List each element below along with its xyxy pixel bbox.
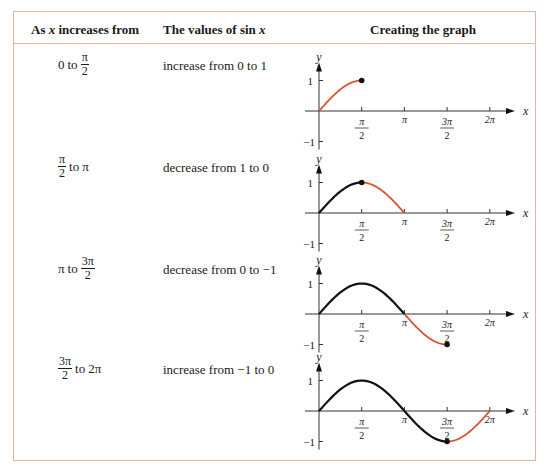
y-tick-label: 1 xyxy=(308,75,314,87)
row-4-values: increase from −1 to 0 xyxy=(163,362,274,378)
row-3-values: decrease from 0 to −1 xyxy=(163,262,276,278)
highlight-curve xyxy=(319,81,362,112)
endpoint-dot xyxy=(359,78,365,84)
y-tick-label: 1 xyxy=(308,278,314,290)
y-tick-label: 1 xyxy=(308,375,314,387)
y-tick-label: −1 xyxy=(303,136,315,148)
header-sin-values: The values of sin x xyxy=(163,22,266,38)
y-tick-label: −1 xyxy=(303,339,315,351)
highlight-curve xyxy=(404,314,447,345)
x-axis-arrow-icon xyxy=(506,108,515,114)
endpoint-dot xyxy=(359,180,365,186)
x-tick-label: 2π xyxy=(485,216,496,227)
header-graph: Creating the graph xyxy=(370,22,476,38)
x-axis-arrow-icon xyxy=(506,210,515,216)
x-tick-label-num: π xyxy=(359,416,365,427)
row-1-range: 0 to π2 xyxy=(58,51,89,78)
graph-row-3: xy1−1π2π3π22π xyxy=(300,253,540,353)
fraction: π2 xyxy=(81,51,89,78)
y-axis-arrow-icon xyxy=(316,63,322,72)
x-tick-label-den: 2 xyxy=(359,232,364,243)
graph-row-2: xy1−1π2π3π22π xyxy=(300,152,540,252)
graph-row-1: xy1−1π2π3π22π xyxy=(300,50,540,150)
x-tick-label-den: 2 xyxy=(359,430,364,441)
y-axis-label: y xyxy=(315,50,322,64)
highlight-curve xyxy=(362,183,405,214)
y-axis-label: y xyxy=(315,350,322,364)
row-2-range: π2 to π xyxy=(58,153,89,180)
endpoint-dot xyxy=(444,439,450,445)
y-axis-arrow-icon xyxy=(316,165,322,174)
x-tick-label: π xyxy=(402,414,408,425)
x-tick-label: 2π xyxy=(485,317,496,328)
prior-curve xyxy=(319,183,362,214)
highlight-curve xyxy=(447,411,490,442)
x-tick-label-den: 2 xyxy=(359,333,364,344)
y-axis-arrow-icon xyxy=(316,266,322,275)
graph-row-4: xy1−1π2π3π22π xyxy=(300,350,540,450)
row-4-range: 3π2 to 2π xyxy=(58,355,101,382)
x-tick-label: π xyxy=(402,317,408,328)
x-axis-label: x xyxy=(522,307,529,321)
x-tick-label: π xyxy=(402,216,408,227)
x-axis-label: x xyxy=(522,206,529,220)
y-tick-label: −1 xyxy=(303,238,315,250)
fraction: π2 xyxy=(58,153,66,180)
x-tick-label-num: 3π xyxy=(441,319,453,330)
x-axis-arrow-icon xyxy=(506,311,515,317)
x-axis-arrow-icon xyxy=(506,408,515,414)
fraction: 3π2 xyxy=(58,355,72,382)
row-2-values: decrease from 1 to 0 xyxy=(163,160,269,176)
x-tick-label-num: π xyxy=(359,319,365,330)
x-tick-label-num: 3π xyxy=(441,416,453,427)
prior-curve xyxy=(319,284,404,315)
y-axis-label: y xyxy=(315,152,322,166)
y-axis-arrow-icon xyxy=(316,363,322,372)
x-axis-label: x xyxy=(522,104,529,118)
x-tick-label: 2π xyxy=(485,114,496,125)
y-tick-label: −1 xyxy=(303,436,315,448)
header-divider xyxy=(13,43,536,44)
fraction: 3π2 xyxy=(81,255,95,282)
x-tick-label-num: 3π xyxy=(441,116,453,127)
endpoint-dot xyxy=(444,342,450,348)
header-x-range: As x increases from xyxy=(31,22,139,38)
x-tick-label-num: π xyxy=(359,116,365,127)
x-tick-label-num: 3π xyxy=(441,218,453,229)
x-tick-label: π xyxy=(402,114,408,125)
x-axis-label: x xyxy=(522,404,529,418)
row-1-values: increase from 0 to 1 xyxy=(163,58,267,74)
x-tick-label-den: 2 xyxy=(359,130,364,141)
row-3-range: π to 3π2 xyxy=(58,255,95,282)
y-tick-label: 1 xyxy=(308,177,314,189)
y-axis-label: y xyxy=(315,253,322,267)
x-tick-label-den: 2 xyxy=(445,232,450,243)
x-tick-label-num: π xyxy=(359,218,365,229)
x-tick-label-den: 2 xyxy=(445,130,450,141)
